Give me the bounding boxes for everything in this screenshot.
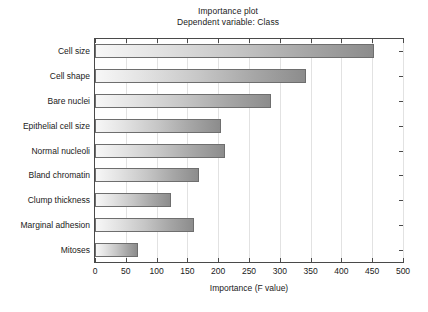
- x-tick-label: 100: [150, 266, 164, 276]
- x-tick-label: 500: [396, 266, 410, 276]
- x-tick-label: 0: [93, 266, 98, 276]
- x-tick-label: 400: [334, 266, 348, 276]
- y-tick-label: Bland chromatin: [29, 170, 90, 180]
- y-tick-label: Epithelial cell size: [23, 121, 90, 131]
- x-tick-label: 450: [365, 266, 379, 276]
- x-tick-label: 300: [273, 266, 287, 276]
- bar: [95, 243, 138, 257]
- y-tick-label: Cell size: [58, 46, 90, 56]
- x-tick-label: 200: [211, 266, 225, 276]
- bar: [95, 168, 199, 182]
- bar: [95, 218, 194, 232]
- importance-plot-figure: Importance plot Dependent variable: Clas…: [0, 0, 428, 312]
- y-tick-label: Bare nuclei: [47, 96, 90, 106]
- chart-title: Importance plot: [28, 6, 428, 17]
- x-tick-label: 250: [242, 266, 256, 276]
- bars-layer: [95, 39, 403, 262]
- x-tick-label: 150: [180, 266, 194, 276]
- y-tick-label: Mitoses: [61, 245, 90, 255]
- x-axis-title: Importance (F value): [94, 283, 404, 294]
- x-tick-label: 50: [121, 266, 130, 276]
- x-axis-tick: [403, 258, 404, 262]
- y-tick-label: Marginal adhesion: [21, 220, 90, 230]
- bar: [95, 44, 374, 58]
- bar: [95, 119, 221, 133]
- gridline: [403, 39, 404, 262]
- bar: [95, 193, 171, 207]
- bar: [95, 94, 271, 108]
- y-tick-label: Normal nucleoli: [31, 146, 90, 156]
- bar: [95, 69, 306, 83]
- y-tick-label: Cell shape: [50, 71, 90, 81]
- plot-area: 050100150200250300350400450500 Cell size…: [94, 38, 404, 263]
- chart-subtitle: Dependent variable: Class: [28, 17, 428, 28]
- y-tick-label: Clump thickness: [28, 195, 90, 205]
- chart-title-block: Importance plot Dependent variable: Clas…: [0, 6, 428, 28]
- x-axis-tick: [403, 39, 404, 43]
- bar: [95, 144, 225, 158]
- x-tick-label: 350: [304, 266, 318, 276]
